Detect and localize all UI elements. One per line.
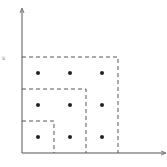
grid-dot	[68, 71, 72, 75]
grid-dot	[68, 135, 72, 139]
grid-dot	[100, 103, 104, 107]
y-axis-label: s	[2, 54, 5, 61]
dot-grid	[36, 71, 104, 139]
grid-dot	[36, 71, 40, 75]
axes	[22, 10, 164, 153]
grid-dot	[100, 71, 104, 75]
grid-dot	[36, 135, 40, 139]
grid-dot	[68, 103, 72, 107]
grid-dot	[100, 135, 104, 139]
grid-dot	[36, 103, 40, 107]
diagram-canvas	[0, 0, 167, 167]
